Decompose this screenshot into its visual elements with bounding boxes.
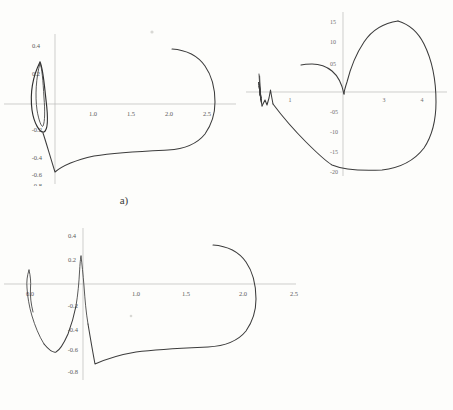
x-tick-b-0: 1 [289,97,292,103]
plot-panel-b: 15 10 05 -05 -10 -15 -20 1 3 4 b) [232,4,453,186]
y-tick-b-0: 15 [330,19,336,25]
x-tick-c-4: 2.5 [290,290,298,297]
plot-panel-c: 0.4 0.2 -0.2 -0.4 -0.6 -0.8 0.0 1.0 1.5 … [0,212,300,392]
curve-b-upper-lobe [344,21,398,94]
y-tick-b-4: -10 [330,129,338,135]
x-tick-a-3: 2.5 [203,110,211,117]
plot-a-svg: 0.4 0.2 -0.2 -0.4 -0.6 -0.8 1.0 1.5 2.0 … [0,6,240,186]
scan-speck-c [130,315,133,318]
y-tick-b-6: -20 [330,169,338,175]
y-tick-a-4: -0.6 [32,171,43,178]
plot-c-svg: 0.4 0.2 -0.2 -0.4 -0.6 -0.8 0.0 1.0 1.5 … [0,212,300,392]
scan-speck [150,30,153,33]
y-tick-c-1: 0.2 [68,256,76,263]
y-tick-b-3: -05 [330,109,338,115]
panel-label-a: a) [104,194,144,206]
y-tick-a-5: -0.8 [32,182,42,186]
y-tick-b-2: 05 [330,61,336,67]
y-tick-c-4: -0.6 [68,346,79,353]
y-tick-a-0: 0.4 [32,42,41,49]
y-tick-c-0: 0.4 [68,232,77,239]
y-tick-b-5: -15 [330,149,338,155]
x-tick-a-2: 2.0 [165,110,173,117]
curve-c-main [88,245,256,364]
x-tick-c-1: 1.0 [132,290,140,297]
plot-panel-a: 0.4 0.2 -0.2 -0.4 -0.6 -0.8 1.0 1.5 2.0 … [0,6,240,186]
curve-c-mid-cusp [76,256,81,306]
x-tick-b-1: 3 [383,97,386,103]
curve-c-left-cusp [27,270,44,344]
x-tick-c-2: 1.5 [182,290,190,297]
curve-c-mid-cusp-edge [81,256,88,324]
x-tick-a-0: 1.0 [89,110,97,117]
plot-b-svg: 15 10 05 -05 -10 -15 -20 1 3 4 [232,4,453,186]
curve-b-small-arc [301,64,344,94]
y-tick-c-5: -0.8 [68,368,78,375]
x-tick-b-2: 4 [421,97,424,103]
figure-container: 0.4 0.2 -0.2 -0.4 -0.6 -0.8 1.0 1.5 2.0 … [0,0,453,410]
y-tick-a-3: -0.4 [32,154,43,161]
curve-b-lower-sweep [273,21,436,170]
x-tick-a-1: 1.5 [127,110,135,117]
curve-b-vnotch [262,90,273,106]
y-tick-b-1: 10 [330,39,336,45]
x-tick-c-3: 2.0 [239,290,247,297]
